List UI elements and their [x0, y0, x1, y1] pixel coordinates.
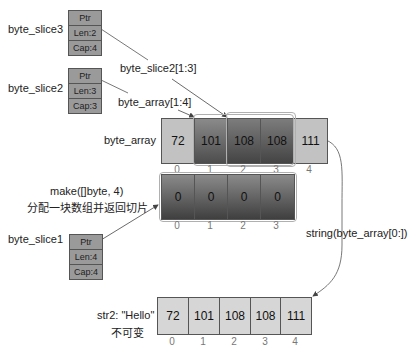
- make-array: 0 0 0 0: [161, 174, 295, 220]
- ptr-field: Ptr: [70, 235, 102, 250]
- array-cell: 0: [162, 175, 195, 219]
- index-label: 2: [227, 336, 241, 347]
- make-expression: make([]byte, 4): [50, 185, 123, 197]
- array-cell: 108: [251, 298, 281, 334]
- array-cell: 101: [195, 119, 228, 163]
- index-label: 2: [236, 220, 250, 231]
- array-cell: 0: [228, 175, 261, 219]
- array-cell: 0: [195, 175, 228, 219]
- index-label: 1: [196, 336, 210, 347]
- cap-field: Cap:3: [69, 99, 101, 113]
- byte-slice1-header: Ptr Len:4 Cap:4: [69, 234, 103, 280]
- byte-slice1-label: byte_slice1: [8, 233, 63, 245]
- byte-slice3-label: byte_slice3: [8, 23, 63, 35]
- array-cell: 72: [162, 119, 195, 163]
- make-description: 分配一块数组并返回切片: [27, 199, 148, 215]
- string-conversion-expression: string(byte_array[0:]): [306, 227, 407, 239]
- ptr-field: Ptr: [69, 69, 101, 84]
- index-label: 4: [302, 164, 316, 175]
- array-slice-expression: byte_array[1:4]: [118, 96, 191, 108]
- byte-array-label: byte_array: [104, 134, 156, 146]
- array-cell: 108: [220, 298, 251, 334]
- str2-label: str2: "Hello": [97, 309, 154, 321]
- index-label: 0: [165, 336, 179, 347]
- cap-field: Cap:4: [70, 265, 102, 279]
- array-cell: 111: [281, 298, 311, 334]
- array-cell: 101: [189, 298, 220, 334]
- byte-slice2-header: Ptr Len:3 Cap:3: [68, 68, 102, 114]
- byte-slice3-header: Ptr Len:2 Cap:4: [68, 10, 102, 56]
- byte-slice2-label: byte_slice2: [8, 82, 63, 94]
- str2-array: 72 101 108 108 111: [157, 297, 312, 335]
- index-label: 3: [258, 336, 272, 347]
- cap-field: Cap:4: [69, 41, 101, 55]
- ptr-field: Ptr: [69, 11, 101, 26]
- str2-immutable-note: 不可变: [111, 324, 144, 340]
- index-label: 4: [288, 336, 302, 347]
- array-cell: 111: [294, 119, 327, 163]
- slice2-expression: byte_slice2[1:3]: [120, 62, 196, 74]
- index-label: 0: [170, 220, 184, 231]
- index-label: 3: [269, 220, 283, 231]
- len-field: Len:4: [70, 250, 102, 265]
- array-cell: 108: [261, 119, 294, 163]
- len-field: Len:2: [69, 26, 101, 41]
- len-field: Len:3: [69, 84, 101, 99]
- array-cell: 72: [158, 298, 189, 334]
- index-label: 1: [203, 220, 217, 231]
- array-cell: 0: [261, 175, 294, 219]
- array-cell: 108: [228, 119, 261, 163]
- byte-array: 72 101 108 108 111: [161, 118, 328, 164]
